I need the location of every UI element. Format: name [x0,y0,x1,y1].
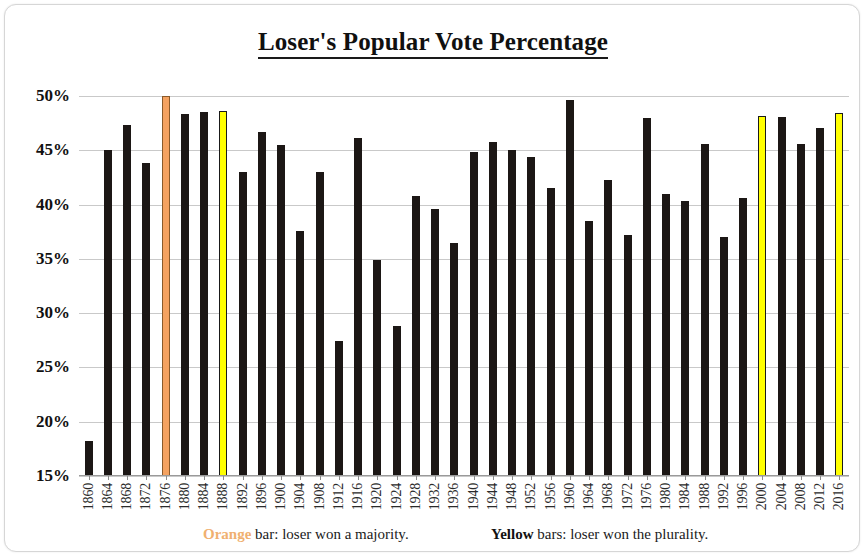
gridline [79,259,849,260]
x-axis-tick-mark [223,476,224,480]
x-axis-tick-label: 2008 [793,483,809,510]
x-axis-tick-label: 1948 [504,483,520,510]
bar-1980 [662,194,670,476]
x-axis-tick-label: 1884 [196,483,212,510]
bar-1964 [585,221,593,476]
plot-area: 50%45%40%35%30%25%20%15% 186018641868187… [79,96,849,476]
x-axis-tick-label: 1892 [235,483,251,510]
x-axis-tick-mark [608,476,609,480]
x-axis-tick-mark [551,476,552,480]
x-axis-tick-label: 1944 [485,483,501,510]
x-axis-tick-mark [435,476,436,480]
x-axis-tick-label: 2000 [754,483,770,510]
x-axis-tick-label: 1952 [523,483,539,510]
y-axis-tick-label: 45% [36,140,70,160]
bar-1908 [316,172,324,476]
bar-1988 [701,144,709,476]
gridline [79,313,849,314]
bar-1956 [547,188,555,476]
y-axis-tick-label: 25% [36,357,70,377]
bar-1900 [277,145,285,476]
bar-2004 [778,117,786,476]
x-axis-tick-mark [146,476,147,480]
x-axis-tick-mark [782,476,783,480]
x-axis-tick-mark [762,476,763,480]
x-axis-tick-label: 2016 [831,483,847,510]
bar-1864 [104,150,112,476]
x-axis-tick-mark [531,476,532,480]
x-axis-tick-mark [320,476,321,480]
x-axis-tick-label: 1968 [600,483,616,510]
x-axis-tick-mark [339,476,340,480]
x-axis-tick-mark [281,476,282,480]
x-axis-tick-label: 1988 [697,483,713,510]
y-axis-tick-label: 30% [36,303,70,323]
y-axis-tick-label: 20% [36,412,70,432]
x-axis-tick-mark [166,476,167,480]
x-axis-tick-mark [705,476,706,480]
bar-1936 [450,243,458,476]
bar-1896 [258,132,266,476]
bar-2012 [816,128,824,477]
x-axis-tick-label: 1928 [408,483,424,510]
x-axis-tick-mark [474,476,475,480]
bar-1916 [354,138,362,476]
x-axis-tick-mark [570,476,571,480]
x-axis-tick-label: 1964 [581,483,597,510]
x-axis-tick-mark [108,476,109,480]
chart-title-text: Loser's Popular Vote Percentage [258,28,608,59]
x-axis-tick-label: 1936 [446,483,462,510]
x-axis-tick-mark [685,476,686,480]
x-axis-tick-mark [743,476,744,480]
legend-yellow-text: bars: loser won the plurality. [534,526,709,542]
y-axis-tick-label: 15% [36,466,70,486]
gridline [79,96,849,97]
bar-1948 [508,150,516,476]
x-axis-tick-label: 1860 [81,483,97,510]
x-axis-tick-mark [589,476,590,480]
bar-1976 [643,118,651,476]
bar-1992 [720,237,728,476]
x-axis-tick-mark [397,476,398,480]
bar-1940 [470,152,478,476]
chart-card: Loser's Popular Vote Percentage 50%45%40… [4,4,860,552]
x-axis-tick-mark [512,476,513,480]
x-axis-tick-label: 1924 [389,483,405,510]
x-axis-tick-label: 1932 [427,483,443,510]
bar-1952 [527,157,535,476]
x-axis-tick-label: 1960 [562,483,578,510]
bar-1912 [335,341,343,476]
x-axis-tick-label: 1904 [292,483,308,510]
bar-1888 [219,111,227,476]
x-axis-tick-mark [185,476,186,480]
x-axis-tick-label: 1992 [716,483,732,510]
bar-1944 [489,142,497,476]
x-axis-tick-mark [647,476,648,480]
bar-1860 [85,441,93,476]
x-axis-tick-mark [300,476,301,480]
y-axis-tick-label: 40% [36,195,70,215]
legend-orange-keyword: Orange [203,526,251,542]
x-axis-tick-label: 1980 [658,483,674,510]
bar-1972 [624,235,632,476]
bar-1968 [604,180,612,476]
x-axis-tick-mark [801,476,802,480]
legend-item-orange: Orange bar: loser won a majority. [203,526,409,543]
x-axis-tick-label: 1916 [350,483,366,510]
gridline [79,476,849,477]
x-axis-tick-mark [243,476,244,480]
bar-1984 [681,201,689,476]
x-axis-tick-label: 2004 [774,483,790,510]
x-axis-tick-mark [89,476,90,480]
x-axis-tick-mark [724,476,725,480]
legend-item-yellow: Yellow bars: loser won the plurality. [491,526,708,543]
x-axis-tick-label: 1896 [254,483,270,510]
x-axis-tick-label: 1940 [466,483,482,510]
bar-1880 [181,114,189,476]
x-axis-tick-label: 1920 [369,483,385,510]
bar-1868 [123,125,131,476]
x-axis-line [79,475,849,476]
x-axis-tick-mark [416,476,417,480]
x-axis-tick-label: 1888 [215,483,231,510]
legend-yellow-keyword: Yellow [491,526,534,542]
